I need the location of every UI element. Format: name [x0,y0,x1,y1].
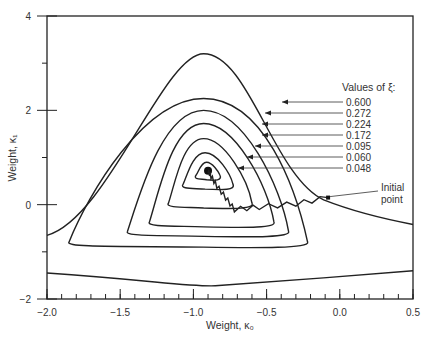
legend-value-0.272: 0.272 [346,108,371,119]
arrowhead-icon [265,111,271,116]
contour-0.600-lower [47,271,413,286]
x-tick-label: −1.5 [110,307,130,318]
legend-value-0.600: 0.600 [346,97,371,108]
initial-point-label-line1: Initial [381,182,404,193]
arrowhead-icon [282,100,288,105]
x-tick-label: 0.0 [333,307,347,318]
contour-chart: −2.0−1.5−1.0−0.50.00.5−2024 Initialpoint… [0,0,433,348]
arrowhead-icon [255,144,261,149]
legend-value-0.172: 0.172 [346,130,371,141]
y-tick-label: 4 [25,11,31,22]
x-axis-label: Weight, κ₀ [206,319,254,331]
x-tick-label: 0.5 [406,307,420,318]
legend-title: Values of ξ: [342,81,396,93]
initial-point-label-line2: point [381,194,403,205]
arrowhead-icon [262,122,268,127]
y-tick-label: 0 [25,200,31,211]
y-tick-label: −2 [20,294,32,305]
initial-point-leader [330,191,378,197]
legend-value-0.048: 0.048 [346,163,371,174]
legend-value-0.095: 0.095 [346,141,371,152]
legend-value-0.224: 0.224 [346,119,371,130]
y-axis-label: Weight, κ₁ [6,134,18,182]
x-tick-label: −2.0 [37,307,57,318]
x-tick-label: −0.5 [257,307,277,318]
y-tick-label: 2 [25,105,31,116]
x-tick-label: −1.0 [184,307,204,318]
initial-point-marker [326,196,330,200]
contour-0.172 [149,124,274,228]
legend-value-0.060: 0.060 [346,152,371,163]
